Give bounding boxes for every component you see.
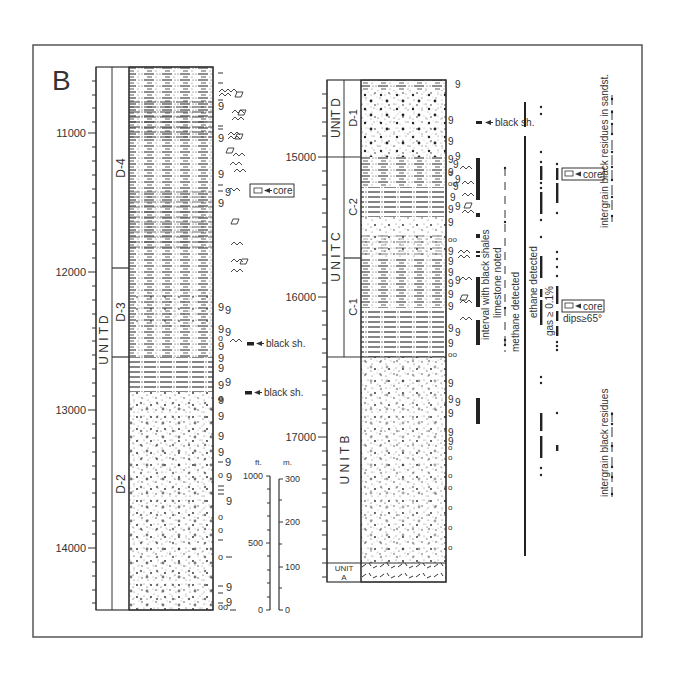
- unit-b-label: U N I T B: [338, 436, 352, 485]
- right-depth-tick-17000: 17000: [285, 431, 327, 443]
- svg-text:o: o: [448, 483, 453, 492]
- svg-text:9: 9: [225, 376, 231, 388]
- svg-text:9: 9: [225, 304, 231, 316]
- unit-d-label: UNIT D: [329, 98, 343, 138]
- left-depth-tick-14000: 14000: [55, 542, 96, 554]
- svg-text:o: o: [448, 523, 453, 532]
- svg-text:9: 9: [455, 201, 461, 212]
- svg-text:9: 9: [448, 394, 454, 405]
- svg-text:9: 9: [226, 495, 232, 507]
- svg-text:black sh.: black sh.: [495, 117, 534, 128]
- dips-label: dips≥65°: [563, 313, 602, 324]
- svg-text:9: 9: [455, 79, 461, 90]
- svg-text:9: 9: [218, 301, 224, 313]
- svg-text:o: o: [448, 503, 453, 512]
- svg-text:0: 0: [285, 605, 290, 615]
- limestone-label: limestone noted: [492, 247, 503, 318]
- svg-text:o: o: [218, 333, 223, 343]
- subunit-d1-label: D-1: [347, 109, 359, 127]
- svg-text:o: o: [448, 543, 453, 552]
- svg-text:9: 9: [218, 132, 224, 144]
- svg-text:500: 500: [248, 538, 263, 548]
- stratigraphic-column-figure: B 11000 12000: [0, 0, 674, 675]
- svg-text:9: 9: [448, 289, 454, 300]
- svg-text:9: 9: [218, 100, 224, 112]
- left-lithology: [129, 67, 213, 610]
- svg-text:11000: 11000: [56, 127, 86, 139]
- left-core-annotation: core: [250, 184, 294, 197]
- svg-text:9: 9: [448, 278, 454, 289]
- svg-text:9: 9: [226, 471, 232, 483]
- svg-text:black sh.: black sh.: [264, 387, 303, 398]
- svg-text:oo: oo: [448, 350, 457, 359]
- svg-text:200: 200: [285, 517, 300, 527]
- svg-text:9: 9: [448, 323, 454, 334]
- svg-text:9: 9: [455, 327, 461, 338]
- svg-text:9: 9: [453, 159, 459, 170]
- svg-text:0: 0: [258, 605, 263, 615]
- svg-text:9: 9: [218, 446, 224, 458]
- right-core-annotation-2: core dips≥65°: [562, 300, 604, 324]
- core-label: core: [273, 185, 293, 196]
- svg-text:9: 9: [448, 267, 454, 278]
- svg-text:17000: 17000: [285, 431, 316, 443]
- methane-line: [524, 102, 526, 556]
- subunit-d2-label: D-2: [114, 474, 128, 494]
- subunit-d4-label: D-4: [114, 158, 128, 178]
- limestone-line: [504, 167, 506, 352]
- svg-text:9: 9: [225, 326, 231, 338]
- svg-text:9: 9: [448, 115, 454, 126]
- left-side-symbols: 999 99 99 99 999 999 999 999 99 oo ooo o…: [218, 100, 232, 612]
- left-depth-tick-13000: 13000: [55, 404, 96, 416]
- intergrain-sandst-label: intergrain black residues in sandst.: [599, 74, 610, 228]
- svg-text:9: 9: [218, 362, 224, 374]
- svg-text:o: o: [448, 443, 453, 452]
- svg-text:o: o: [218, 552, 223, 562]
- svg-text:16000: 16000: [285, 291, 316, 303]
- svg-text:1000: 1000: [243, 471, 263, 481]
- svg-text:9: 9: [448, 204, 454, 215]
- svg-text:9: 9: [218, 379, 224, 391]
- svg-text:9: 9: [448, 408, 454, 419]
- subunit-c1-label: C-1: [347, 298, 359, 316]
- svg-text:15000: 15000: [285, 151, 316, 163]
- left-black-shale-2: black sh.: [245, 387, 303, 398]
- svg-text:black sh.: black sh.: [266, 338, 305, 349]
- svg-text:9: 9: [448, 301, 454, 312]
- svg-text:o: o: [448, 453, 453, 462]
- methane-label: methane detected: [510, 272, 521, 352]
- gas-marks: [556, 163, 559, 451]
- intergrain-label: intergrain black residues: [599, 389, 610, 497]
- svg-text:m.: m.: [283, 458, 292, 467]
- concretion-symbols: [226, 92, 248, 264]
- svg-text:9: 9: [218, 410, 224, 422]
- right-side-symbols: 999 999 999 999 999 999 999 999 999 99 o…: [448, 79, 461, 552]
- right-column: 15000 16000 17000 UNIT D D-1 U N I T C C…: [285, 74, 613, 583]
- subunit-d3-label: D-3: [114, 302, 128, 322]
- svg-text:9: 9: [218, 197, 224, 209]
- unit-c-label: U N I T C: [329, 232, 343, 282]
- right-lithology: [361, 80, 446, 582]
- svg-text:o: o: [218, 525, 223, 535]
- svg-text:100: 100: [285, 562, 300, 572]
- left-unit-label: U N I T D: [97, 315, 111, 365]
- intergrain-sandst-line: [611, 95, 613, 222]
- left-depth-tick-12000: 12000: [55, 266, 96, 278]
- svg-text:o: o: [448, 471, 453, 480]
- svg-text:oo: oo: [448, 235, 457, 244]
- svg-text:9: 9: [448, 256, 454, 267]
- interval-black-shales-label: interval with black shales: [480, 229, 491, 340]
- right-crinkle-symbols: [458, 166, 474, 320]
- panel-label: B: [52, 65, 71, 96]
- svg-text:o: o: [448, 168, 453, 177]
- svg-text:9: 9: [225, 456, 231, 468]
- svg-text:300: 300: [285, 474, 300, 484]
- unit-a-label: UNIT A: [327, 563, 361, 582]
- svg-text:9: 9: [218, 430, 224, 442]
- svg-text:12000: 12000: [55, 266, 86, 278]
- right-core-annotation-1: core: [562, 168, 604, 180]
- subunit-c2-label: C-2: [347, 198, 359, 216]
- right-depth-tick-16000: 16000: [285, 291, 327, 303]
- svg-text:9: 9: [455, 275, 461, 286]
- svg-text:9: 9: [448, 217, 454, 228]
